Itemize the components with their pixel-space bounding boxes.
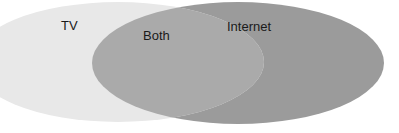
both-label: Both: [143, 28, 170, 43]
venn-diagram: [0, 0, 399, 133]
tv-label: TV: [61, 18, 78, 33]
internet-label: Internet: [227, 19, 271, 34]
